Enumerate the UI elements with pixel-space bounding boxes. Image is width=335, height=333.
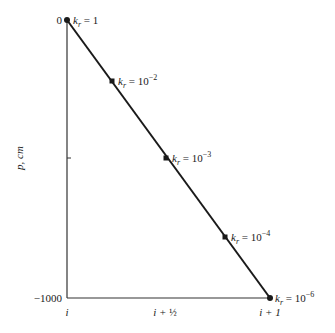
- point-kr-1: [64, 17, 70, 23]
- y-top-tick-label: 0: [57, 14, 63, 26]
- y-bottom-tick-label: −1000: [34, 292, 63, 304]
- x-tick-label-i: i: [65, 306, 68, 318]
- label-kr-1: kr = 1: [73, 14, 98, 29]
- label-kr-1e-3: kr = 10−3: [172, 150, 211, 167]
- point-kr-1e-2: [110, 79, 115, 84]
- point-kr-1e-3: [164, 156, 169, 161]
- point-kr-1e-4: [223, 235, 228, 240]
- x-tick-label-i-plus-1: i + 1: [259, 306, 280, 318]
- label-kr-1e-4: kr = 10−4: [231, 229, 270, 246]
- point-kr-1e-6: [267, 295, 273, 301]
- y-axis-title: p, cm: [13, 146, 25, 171]
- label-kr-1e-6: kr = 10−6: [275, 290, 314, 307]
- pressure-profile-diagram: 0 −1000 p, cm i i + ½ i + 1 kr = 1 kr = …: [0, 0, 335, 333]
- label-kr-1e-2: kr = 10−2: [118, 73, 157, 90]
- x-tick-label-i-half: i + ½: [153, 306, 177, 318]
